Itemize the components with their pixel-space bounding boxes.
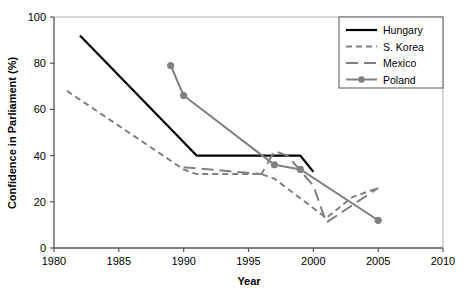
y-axis-tick-labels: 020406080100 bbox=[28, 11, 46, 254]
chart-legend: HungaryS. KoreaMexicoPoland bbox=[339, 17, 443, 88]
x-tick-label: 1985 bbox=[107, 255, 131, 267]
series-line-mexico bbox=[184, 151, 379, 223]
chart-container: 1980198519901995200020052010 02040608010… bbox=[0, 0, 466, 298]
data-series-layer bbox=[67, 35, 382, 223]
y-axis-title: Confidence in Parliament (%) bbox=[6, 57, 18, 210]
data-point-marker bbox=[167, 62, 174, 69]
y-tick-label: 100 bbox=[28, 11, 46, 23]
x-tick-label: 2010 bbox=[431, 255, 455, 267]
y-tick-label: 20 bbox=[34, 196, 46, 208]
data-point-marker bbox=[180, 92, 187, 99]
legend-label-poland: Poland bbox=[383, 74, 416, 86]
legend-label-mexico: Mexico bbox=[383, 57, 416, 69]
data-point-marker bbox=[375, 217, 382, 224]
y-tick-label: 80 bbox=[34, 57, 46, 69]
x-tick-label: 2005 bbox=[366, 255, 390, 267]
legend-label-hungary: Hungary bbox=[383, 24, 423, 36]
legend-marker bbox=[358, 76, 364, 82]
y-tick-label: 40 bbox=[34, 150, 46, 162]
line-chart: 1980198519901995200020052010 02040608010… bbox=[0, 0, 466, 298]
data-point-marker bbox=[297, 166, 304, 173]
series-line-s-korea bbox=[67, 91, 378, 218]
x-tick-label: 2000 bbox=[301, 255, 325, 267]
x-tick-label: 1990 bbox=[171, 255, 195, 267]
data-point-marker bbox=[271, 161, 278, 168]
x-tick-label: 1980 bbox=[42, 255, 66, 267]
legend-label-s-korea: S. Korea bbox=[383, 41, 424, 53]
y-tick-label: 60 bbox=[34, 103, 46, 115]
y-tick-label: 0 bbox=[40, 242, 46, 254]
x-axis-tick-labels: 1980198519901995200020052010 bbox=[42, 255, 455, 267]
series-line-poland bbox=[171, 66, 378, 221]
x-axis-title: Year bbox=[237, 275, 261, 287]
x-tick-label: 1995 bbox=[236, 255, 260, 267]
